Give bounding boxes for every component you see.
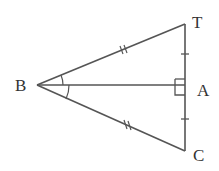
label-a: A [197,82,209,99]
triangle-figure [0,0,219,171]
label-b: B [15,77,26,94]
angle-arc-tba [61,75,63,85]
geometry-diagram: B T A C [0,0,219,171]
label-c: C [193,147,204,164]
segment-bc [37,85,185,151]
segment-bt [37,24,185,85]
right-angle-mark [175,79,185,95]
angle-arc-abc [66,85,69,99]
label-t: T [192,14,202,31]
